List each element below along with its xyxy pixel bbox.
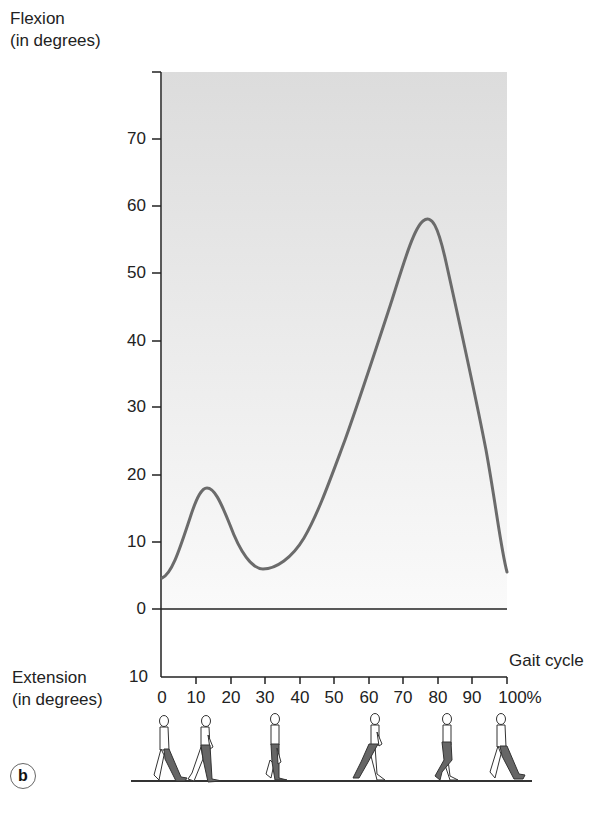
x-axis [161,677,507,684]
walking-figure-12 [188,716,222,783]
panel-label-badge: b [10,763,36,789]
walking-figure-80 [435,714,458,781]
knee-flexion-chart [0,0,611,816]
walking-figure-0 [154,716,187,782]
y-axis [152,72,161,677]
plot-shaded-area [162,72,507,609]
walking-figure-60 [353,714,385,781]
walking-figure-100 [490,714,525,780]
walking-figure-30 [266,714,287,781]
